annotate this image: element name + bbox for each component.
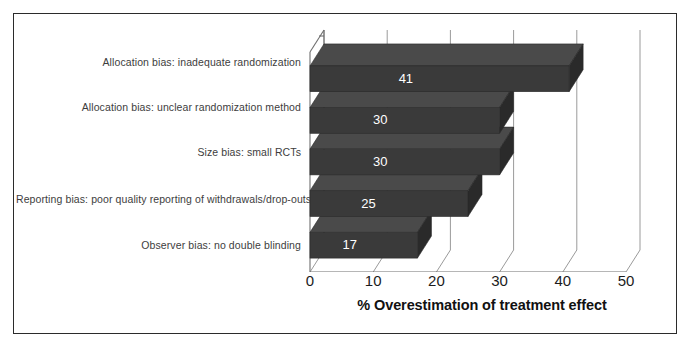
chart-screenshot: Allocation bias: inadequate randomizatio… [0,0,690,349]
category-label: Observer bias: no double blinding [16,239,301,251]
gridline-depth-foot [436,250,450,272]
x-tick-label: 20 [428,272,445,289]
x-axis-title: % Overestimation of treatment effect [302,297,662,313]
category-label: Allocation bias: unclear randomization m… [16,101,301,113]
category-label: Allocation bias: inadequate randomizatio… [16,56,301,68]
plot-area: 4130302517 [302,22,662,272]
bar [310,127,514,175]
bar [310,210,431,258]
x-tick-label: 50 [618,272,635,289]
gridline-depth-foot [563,250,577,272]
category-label: Reporting bias: poor quality reporting o… [16,193,301,205]
bar-value-label: 30 [373,154,387,169]
bar-value-label: 41 [399,71,413,86]
x-tick-label: 10 [365,272,382,289]
bar [310,44,583,92]
category-label-list: Allocation bias: inadequate randomizatio… [16,18,301,268]
bar [310,86,514,134]
x-tick-label-list: 01020304050 [302,272,662,296]
x-tick-label: 30 [491,272,508,289]
bar-value-label: 25 [361,196,375,211]
x-tick-label: 0 [306,272,314,289]
gridline-depth-foot [500,250,514,272]
x-tick-label: 40 [554,272,571,289]
category-label: Size bias: small RCTs [16,146,301,158]
bar-group [310,44,583,258]
bar-value-label: 30 [373,112,387,127]
gridline-depth-foot [626,250,640,272]
bar-value-label: 17 [343,237,357,252]
chart-svg: 4130302517 [302,22,662,272]
bar [310,169,482,217]
